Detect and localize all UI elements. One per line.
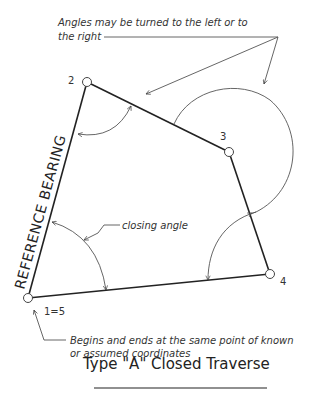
station-label-3: 3: [220, 131, 226, 142]
station-3: [225, 148, 234, 157]
angle-arc-2: [78, 106, 131, 135]
stations: [24, 78, 275, 303]
station-1: [24, 294, 33, 303]
begins-note-line1: Begins and ends at the same point of kno…: [70, 335, 294, 346]
station-label-2: 2: [68, 75, 74, 86]
station-label-4: 4: [280, 276, 286, 287]
side-1-2: [28, 82, 87, 298]
traverse-polygon: [28, 82, 270, 298]
station-2: [83, 78, 92, 87]
leader-closing: [84, 225, 120, 240]
closing-angle-label: closing angle: [122, 220, 188, 231]
station-label-1: 1=5: [44, 306, 65, 317]
side-2-3: [87, 82, 229, 152]
diagram-title: Type "A" Closed Traverse: [82, 355, 270, 373]
station-4: [266, 270, 275, 279]
leader-angles-arrow1: [146, 37, 278, 94]
angles-note-line1: Angles may be turned to the left or to: [57, 17, 248, 28]
angles-note-line2: the right: [58, 31, 102, 42]
closing-angle-arc: [52, 222, 106, 290]
leader-angles-arrow2: [264, 37, 278, 84]
traverse-diagram: 2 3 4 1=5 Angles may be turned to the le…: [0, 0, 316, 408]
side-3-4: [229, 152, 270, 274]
angle-arc-4: [208, 212, 256, 280]
side-4-1: [28, 274, 270, 298]
reference-bearing-label: REFERENCE BEARING: [11, 133, 68, 291]
